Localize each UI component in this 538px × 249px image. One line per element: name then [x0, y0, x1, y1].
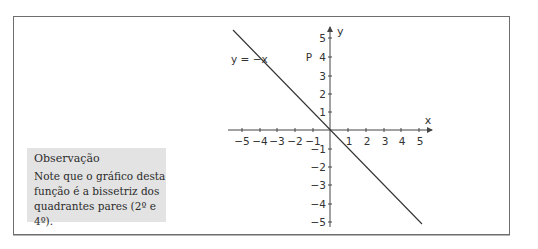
x-axis-label: x [425, 114, 432, 127]
svg-text:−4: −4 [311, 198, 327, 210]
svg-text:−3: −3 [269, 135, 284, 147]
y-axis-label: y [337, 25, 344, 38]
svg-text:2: 2 [364, 135, 371, 147]
svg-text:−4: −4 [252, 135, 268, 147]
svg-text:3: 3 [319, 70, 326, 82]
svg-text:3: 3 [382, 135, 389, 147]
svg-text:−2: −2 [287, 135, 302, 147]
svg-text:5: 5 [417, 135, 424, 147]
observation-box: Observação Note que o gráfico desta funç… [27, 148, 166, 222]
function-label: y = −x [231, 53, 268, 65]
svg-text:−5: −5 [311, 216, 326, 228]
svg-text:4: 4 [399, 135, 406, 147]
observation-title: Observação [34, 152, 166, 166]
svg-text:1: 1 [346, 135, 353, 147]
svg-text:−5: −5 [234, 135, 249, 147]
svg-text:−2: −2 [311, 161, 326, 173]
svg-text:−1: −1 [311, 143, 326, 155]
svg-text:−3: −3 [311, 179, 326, 191]
point-label: P [306, 51, 312, 63]
svg-text:2: 2 [319, 88, 326, 100]
svg-text:5: 5 [319, 32, 326, 44]
svg-text:1: 1 [319, 106, 326, 118]
x-tick-labels: −5 −4 −3 −2 −1 1 2 3 4 5 [234, 135, 423, 147]
observation-text: Note que o gráfico desta função é a biss… [34, 169, 166, 229]
svg-text:4: 4 [319, 51, 326, 63]
